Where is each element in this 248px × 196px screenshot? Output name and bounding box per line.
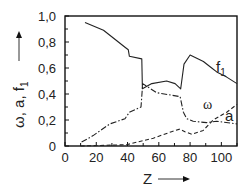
x-tick-label: 100 (211, 150, 233, 165)
x-tick-label: 80 (183, 150, 197, 165)
y-tick-label: 0,6 (38, 61, 56, 76)
series-f1-line (85, 23, 237, 89)
chart: 02040608010000,20,40,60,81,0 f1 ω a Z ω,… (0, 0, 248, 196)
tick-labels: 02040608010000,20,40,60,81,0 (38, 9, 232, 165)
x-axis-arrowhead-icon (183, 176, 190, 182)
y-tick-label: 1,0 (38, 9, 56, 24)
y-axis-label: ω, a, f1 (10, 81, 30, 128)
y-tick-label: 0,8 (38, 35, 56, 50)
y-tick-label: 0,4 (38, 87, 56, 102)
x-tick-label: 20 (89, 150, 103, 165)
axis-ticks (65, 16, 237, 146)
y-axis-arrowhead-icon (16, 31, 22, 38)
f1-label: f1 (216, 58, 226, 78)
x-tick-label: 40 (120, 150, 134, 165)
series-lines (81, 23, 237, 147)
x-axis-label: Z (143, 170, 152, 187)
x-tick-label: 60 (152, 150, 166, 165)
y-tick-label: 0 (49, 139, 56, 154)
plot-frame (65, 16, 237, 146)
y-tick-label: 0,2 (38, 113, 56, 128)
series-a-line (81, 104, 237, 146)
x-tick-label: 0 (61, 150, 68, 165)
a-label: a (225, 107, 234, 124)
series-omega-line (82, 84, 237, 143)
omega-label: ω (203, 97, 212, 112)
